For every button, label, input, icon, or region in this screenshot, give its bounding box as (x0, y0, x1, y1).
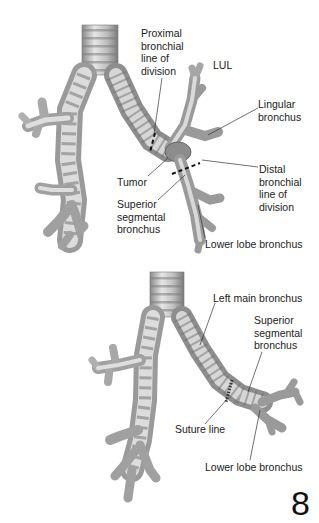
label-lower-lobe: Lower lobe bronchus (205, 238, 302, 251)
label-distal-line: Distal bronchial line of division (259, 163, 302, 213)
label-left-main-bronchus: Left main bronchus (213, 292, 302, 305)
figure-number: 8 (291, 486, 310, 520)
label-superior-segmental-after: Superior segmental bronchus (254, 314, 302, 352)
label-tumor: Tumor (117, 176, 147, 189)
label-lul: LUL (213, 59, 232, 72)
label-superior-segmental: Superior segmental bronchus (117, 198, 165, 236)
label-lingular-bronchus: Lingular bronchus (258, 98, 301, 123)
bronchial-diagram (0, 0, 319, 523)
label-lower-lobe-after: Lower lobe bronchus (205, 461, 302, 474)
label-proximal-line: Proximal bronchial line of division (141, 27, 184, 77)
label-suture-line: Suture line (175, 423, 225, 436)
